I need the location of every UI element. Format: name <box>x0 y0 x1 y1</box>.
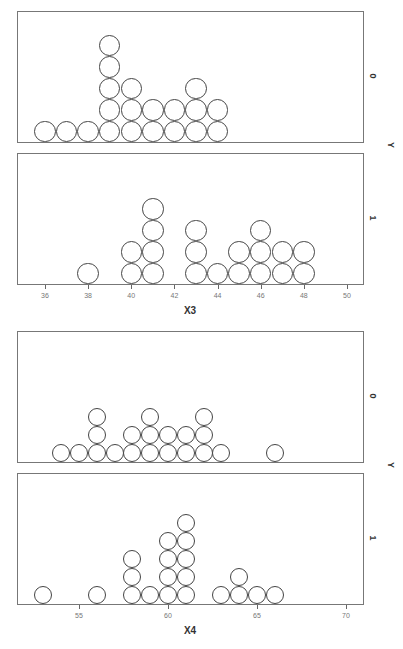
x-tick <box>218 285 219 289</box>
x-tick <box>304 285 305 289</box>
y-axis-title: Y <box>386 462 396 468</box>
x-tick <box>88 285 89 289</box>
data-dot <box>177 586 195 604</box>
data-dot <box>266 444 284 462</box>
x-tick <box>79 605 80 609</box>
data-dot <box>207 99 229 121</box>
data-dot <box>121 263 143 285</box>
group-label: 0 <box>368 393 378 398</box>
data-dot <box>177 532 195 550</box>
data-dot <box>56 121 78 143</box>
data-dot <box>99 56 121 78</box>
x-tick <box>257 605 258 609</box>
data-dot <box>142 220 164 242</box>
x-tick-label: 50 <box>343 292 351 299</box>
data-dot <box>228 263 250 285</box>
x-axis-title: X4 <box>184 625 196 636</box>
data-dot <box>159 426 177 444</box>
data-dot <box>248 586 266 604</box>
x-tick <box>346 605 347 609</box>
data-dot <box>121 78 143 100</box>
group-label: 0 <box>368 73 378 78</box>
x-tick-label: 65 <box>253 612 261 619</box>
x-tick <box>45 285 46 289</box>
data-dot <box>159 550 177 568</box>
x-tick-label: 44 <box>214 292 222 299</box>
data-dot <box>185 121 207 143</box>
data-dot <box>121 121 143 143</box>
data-dot <box>266 586 284 604</box>
data-dot <box>272 241 294 263</box>
data-dot <box>77 121 99 143</box>
x-tick-label: 38 <box>84 292 92 299</box>
data-dot <box>88 586 106 604</box>
data-dot <box>195 444 213 462</box>
x-tick-label: 70 <box>342 612 350 619</box>
data-dot <box>106 444 124 462</box>
data-dot <box>142 99 164 121</box>
data-dot <box>177 444 195 462</box>
data-dot <box>34 121 56 143</box>
data-dot <box>293 263 315 285</box>
data-dot <box>77 263 99 285</box>
x-tick <box>174 285 175 289</box>
x-tick-label: 48 <box>300 292 308 299</box>
data-dot <box>177 568 195 586</box>
x-axis-title: X3 <box>184 305 196 316</box>
x-tick-label: 40 <box>127 292 135 299</box>
data-dot <box>293 241 315 263</box>
x-tick-label: 36 <box>41 292 49 299</box>
data-dot <box>185 220 207 242</box>
data-dot <box>177 514 195 532</box>
data-dot <box>195 408 213 426</box>
data-dot <box>142 121 164 143</box>
data-dot <box>159 568 177 586</box>
data-dot <box>99 99 121 121</box>
data-dot <box>159 444 177 462</box>
y-axis-title: Y <box>386 142 396 148</box>
x-tick-label: 60 <box>164 612 172 619</box>
data-dot <box>142 198 164 220</box>
x-tick <box>168 605 169 609</box>
data-dot <box>159 586 177 604</box>
data-dot <box>88 444 106 462</box>
data-dot <box>185 78 207 100</box>
group-label: 1 <box>368 215 378 220</box>
data-dot <box>70 444 88 462</box>
data-dot <box>177 550 195 568</box>
data-dot <box>185 263 207 285</box>
data-dot <box>88 408 106 426</box>
data-dot <box>272 263 294 285</box>
data-dot <box>88 426 106 444</box>
data-dot <box>142 263 164 285</box>
data-dot <box>121 241 143 263</box>
data-dot <box>159 532 177 550</box>
data-dot <box>185 99 207 121</box>
data-dot <box>121 99 143 121</box>
x-tick <box>347 285 348 289</box>
x-tick-label: 42 <box>171 292 179 299</box>
x-tick <box>261 285 262 289</box>
data-dot <box>185 241 207 263</box>
data-dot <box>164 121 186 143</box>
panel-x4-group-0 <box>17 331 364 463</box>
data-dot <box>164 99 186 121</box>
group-label: 1 <box>368 535 378 540</box>
x-tick-label: 55 <box>75 612 83 619</box>
x-tick <box>131 285 132 289</box>
data-dot <box>250 241 272 263</box>
data-dot <box>142 241 164 263</box>
x-tick-label: 46 <box>257 292 265 299</box>
data-dot <box>195 426 213 444</box>
data-dot <box>207 121 229 143</box>
data-dot <box>228 241 250 263</box>
data-dot <box>207 263 229 285</box>
data-dot <box>177 426 195 444</box>
